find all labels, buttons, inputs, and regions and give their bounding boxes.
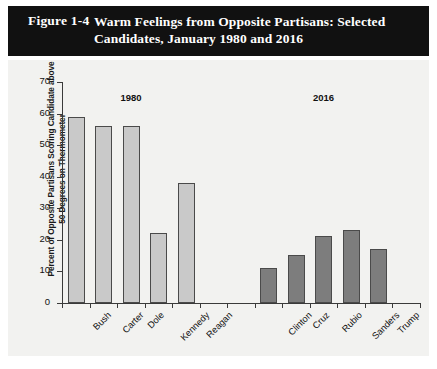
x-tick (392, 303, 393, 308)
y-tick-label: 0 (45, 296, 50, 307)
x-tick (145, 303, 146, 308)
bar (288, 255, 305, 302)
figure-number: Figure 1-4 (28, 13, 94, 29)
figure-page: Figure 1-4Warm Feelings from Opposite Pa… (0, 0, 437, 369)
y-tick-label: 60 (39, 107, 50, 118)
y-tick-label: 70 (39, 75, 50, 86)
x-tick (117, 303, 118, 308)
x-tick (310, 303, 311, 308)
x-tick (200, 303, 201, 308)
x-tick (255, 303, 256, 308)
y-tick-label: 30 (39, 201, 50, 212)
x-tick-label: Cruz (311, 310, 332, 331)
y-tick: 10 (57, 271, 62, 272)
figure-title-bar: Figure 1-4Warm Feelings from Opposite Pa… (8, 6, 429, 56)
bar (343, 230, 360, 302)
x-tick-label: Kennedy (178, 310, 211, 343)
bar (95, 126, 112, 302)
x-tick-label: Bush (91, 310, 113, 332)
y-tick-label: 40 (39, 170, 50, 181)
x-tick (90, 303, 91, 308)
x-tick (420, 303, 421, 308)
y-tick-label: 10 (39, 264, 50, 275)
x-tick (62, 303, 63, 308)
y-tick-label: 20 (39, 233, 50, 244)
x-tick (227, 303, 228, 308)
y-tick: 20 (57, 240, 62, 241)
y-tick: 30 (57, 208, 62, 209)
y-tick: 0 (57, 303, 62, 304)
x-tick-label: Clinton (286, 310, 313, 337)
bar (260, 268, 277, 303)
bar (178, 183, 195, 303)
bar (370, 249, 387, 303)
group-label-1980: 1980 (101, 92, 161, 103)
x-tick-label: Carter (120, 310, 145, 335)
x-tick (337, 303, 338, 308)
x-tick (365, 303, 366, 308)
y-tick: 70 (57, 82, 62, 83)
y-tick: 40 (57, 177, 62, 178)
x-tick (282, 303, 283, 308)
y-tick: 50 (57, 145, 62, 146)
group-label-2016: 2016 (294, 92, 354, 103)
y-tick-label: 50 (39, 138, 50, 149)
y-tick: 60 (57, 114, 62, 115)
bar (150, 233, 167, 302)
x-tick-label: Rubio (340, 310, 364, 334)
x-axis-line (62, 303, 420, 304)
plot-region: 010203040506070 BushCarterDoleKennedyRea… (62, 82, 420, 304)
bar (315, 236, 332, 302)
bar (123, 126, 140, 302)
x-tick-label: Dole (146, 310, 166, 330)
figure-title: Warm Feelings from Opposite Partisans: S… (94, 13, 394, 47)
chart-area: Percent of Opposite Partisans Scoring Ca… (8, 60, 429, 356)
y-axis-line (62, 82, 63, 304)
title-row: Figure 1-4Warm Feelings from Opposite Pa… (28, 13, 418, 47)
x-tick (172, 303, 173, 308)
bar (68, 117, 85, 303)
